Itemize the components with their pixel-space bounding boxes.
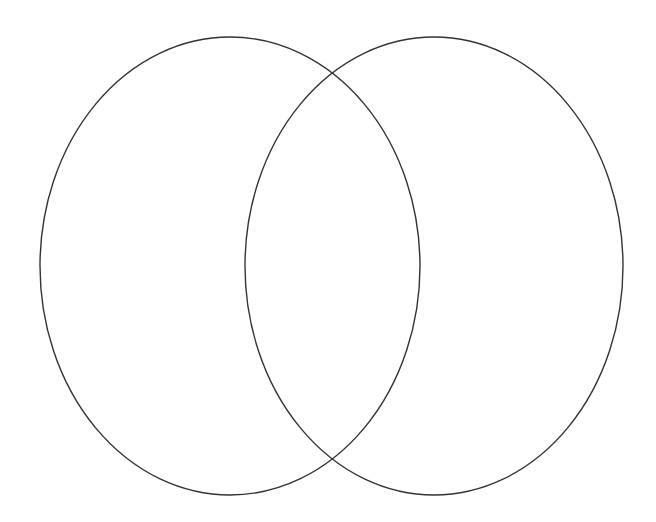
venn-diagram-canvas xyxy=(0,0,656,522)
venn-diagram xyxy=(0,0,656,522)
left-set-ellipse xyxy=(40,37,420,495)
right-set-ellipse xyxy=(245,37,623,495)
